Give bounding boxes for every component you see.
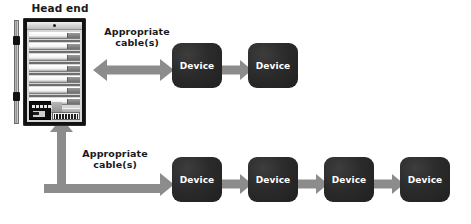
device-label: Device bbox=[332, 175, 367, 185]
led-indicator-icon bbox=[32, 105, 35, 109]
cable-label-bottom: Appropriate cable(s) bbox=[72, 148, 158, 170]
rack-slot-divider bbox=[29, 51, 80, 53]
rack-slot bbox=[29, 76, 80, 83]
device-node-bottom-2[interactable]: Device bbox=[248, 157, 298, 202]
network-topology-diagram: Head end bbox=[0, 0, 471, 224]
led-indicator-icon bbox=[40, 105, 43, 109]
rack-slot-divider bbox=[29, 73, 80, 75]
power-indicator-icon bbox=[53, 24, 56, 27]
head-end-rack[interactable] bbox=[14, 18, 86, 126]
led-indicator-icon bbox=[36, 105, 39, 109]
rack-port-strip[interactable] bbox=[52, 112, 80, 120]
rack-slot bbox=[29, 65, 80, 72]
rack-slot-divider bbox=[29, 40, 80, 42]
rack-hinge-lower-icon bbox=[13, 92, 20, 101]
device-node-top-1[interactable]: Device bbox=[172, 43, 222, 88]
rack-port bbox=[77, 114, 78, 119]
rack-slot bbox=[29, 32, 80, 39]
rack-slot bbox=[29, 43, 80, 50]
arrow-headend-to-device-top bbox=[93, 59, 174, 81]
device-node-bottom-1[interactable]: Device bbox=[172, 157, 222, 202]
arrow-branch-to-headend bbox=[44, 118, 73, 193]
device-label: Device bbox=[408, 175, 443, 185]
device-node-bottom-4[interactable]: Device bbox=[400, 157, 450, 202]
led-indicator-icon bbox=[44, 105, 47, 109]
arrow-branch-to-device-bottom bbox=[44, 173, 174, 196]
rack-slot-divider bbox=[29, 84, 80, 86]
cable-label-top: Appropriate cable(s) bbox=[96, 26, 178, 48]
rack-led-row bbox=[32, 105, 51, 109]
head-end-label: Head end bbox=[22, 2, 98, 14]
device-label: Device bbox=[180, 61, 215, 71]
device-label: Device bbox=[256, 61, 291, 71]
device-label: Device bbox=[180, 175, 215, 185]
rack-top-strip bbox=[27, 22, 82, 30]
rack-control-panel[interactable] bbox=[29, 101, 51, 120]
rack-hinge-upper-icon bbox=[13, 36, 20, 45]
rack-slot-divider bbox=[29, 62, 80, 64]
rack-chassis bbox=[23, 18, 86, 126]
rack-panel-display-inset bbox=[33, 112, 39, 115]
rack-slot bbox=[29, 54, 80, 61]
rack-slot bbox=[29, 87, 80, 94]
device-node-bottom-3[interactable]: Device bbox=[324, 157, 374, 202]
device-node-top-2[interactable]: Device bbox=[248, 43, 298, 88]
rack-faceplate bbox=[27, 22, 82, 122]
device-label: Device bbox=[256, 175, 291, 185]
led-indicator-icon bbox=[48, 105, 51, 109]
rack-slot-divider bbox=[29, 95, 80, 97]
